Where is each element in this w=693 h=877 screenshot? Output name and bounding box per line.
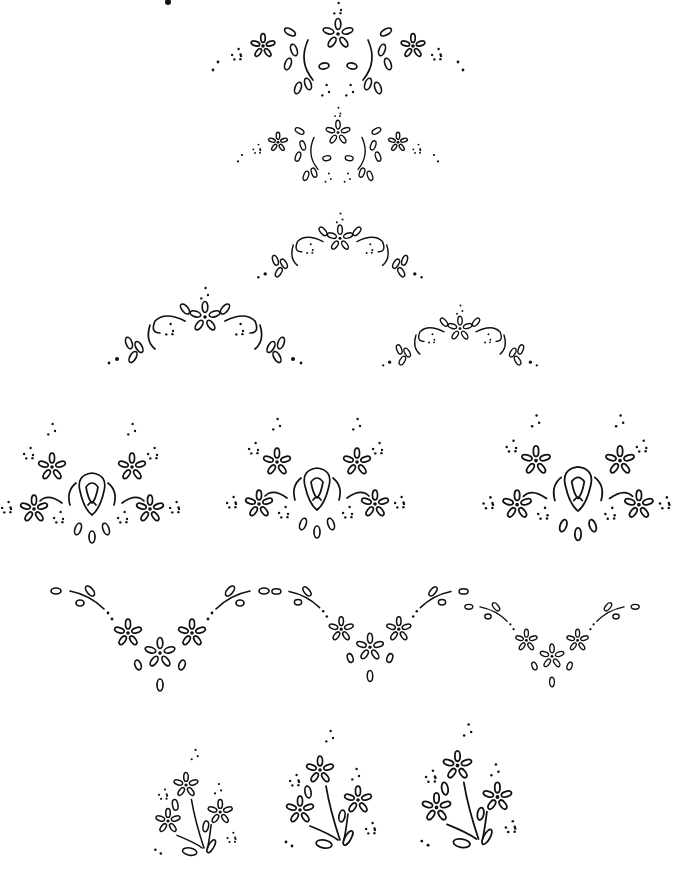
border-arch-3 [382, 304, 538, 366]
rose-spray-1 [1, 423, 180, 543]
bouquet-2 [285, 730, 377, 850]
border-arch-1 [257, 213, 423, 279]
border-arch-2 [108, 287, 303, 365]
border-top-1 [212, 2, 465, 97]
embroidery-pattern-sheet [0, 0, 693, 877]
pattern-canvas [0, 0, 693, 877]
bouquet-1 [154, 749, 236, 857]
v-border-2 [272, 586, 468, 682]
rose-spray-3 [482, 414, 670, 540]
v-border-1 [51, 584, 269, 691]
rose-spray-2 [226, 418, 405, 538]
v-border-3 [465, 602, 639, 687]
border-top-2 [237, 107, 439, 183]
bouquet-3 [420, 723, 516, 848]
